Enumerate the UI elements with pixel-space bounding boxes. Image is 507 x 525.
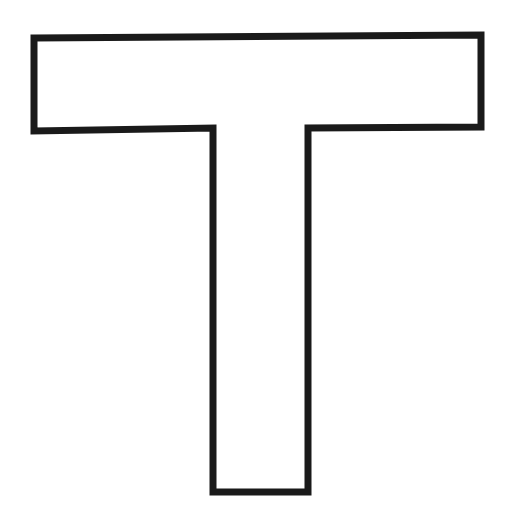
letter-t-canvas bbox=[0, 0, 507, 525]
letter-t-outline bbox=[34, 35, 481, 492]
